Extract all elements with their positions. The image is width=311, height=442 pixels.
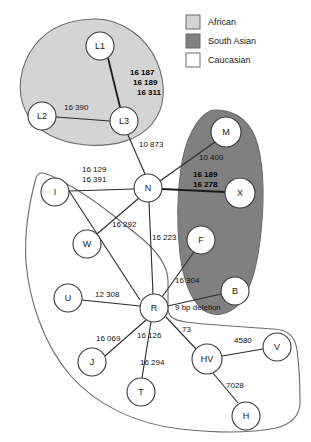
node-HV[interactable]: HV [192,344,222,374]
edge-label-10400: 10 400 [199,153,224,162]
node-label-M: M [222,127,230,137]
legend-swatch-caucasian [186,53,200,67]
edge-label-16187: 16 187 [130,68,155,77]
node-label-J: J [90,357,95,367]
node-R[interactable]: R [140,294,168,322]
edge-N-I [69,189,134,191]
node-label-X: X [237,188,243,198]
node-label-T: T [138,387,144,397]
node-label-L3: L3 [119,116,129,126]
edge-label-4580: 4580 [234,336,252,345]
edge-label-16069: 16 069 [96,334,121,343]
node-label-W: W [83,239,92,249]
edge-label-16126: 16 126 [137,331,162,340]
node-L3[interactable]: L3 [110,107,138,135]
region-shapes [20,19,300,432]
node-T[interactable]: T [127,378,155,406]
legend-label-south-asian: South Asian [208,36,256,46]
edge-label-16294: 16 294 [140,358,165,367]
node-N[interactable]: N [134,174,162,202]
legend-label-african: African [208,17,236,27]
node-label-HV: HV [201,354,214,364]
edge-label-16304: 16 304 [175,276,200,285]
legend: African South Asian Caucasian [186,15,256,67]
node-label-L2: L2 [37,111,47,121]
node-L1[interactable]: L1 [86,32,114,60]
edge-label-16390: 16 390 [64,103,89,112]
edge-label-10873: 10 873 [139,140,164,149]
node-M[interactable]: M [211,117,241,147]
edge-label-73: 73 [182,325,191,334]
node-label-F: F [198,235,204,245]
node-label-R: R [151,303,158,313]
legend-item-south-asian: South Asian [186,34,256,48]
node-W[interactable]: W [73,230,101,258]
node-label-B: B [232,286,238,296]
edge-label-16189a: 16 189 [133,78,158,87]
node-V[interactable]: V [263,333,291,361]
legend-swatch-south-asian [186,34,200,48]
node-H[interactable]: H [232,402,260,430]
edge-label-12308: 12 308 [95,290,120,299]
legend-item-african: African [186,15,236,29]
network-diagram-canvas: 16 187 16 189 16 311 16 390 10 873 10 40… [0,0,311,442]
node-B[interactable]: B [221,277,249,305]
node-L2[interactable]: L2 [28,102,56,130]
edge-label-7028: 7028 [226,381,244,390]
node-I[interactable]: I [41,178,69,206]
node-X[interactable]: X [225,178,255,208]
node-label-N: N [145,183,152,193]
node-U[interactable]: U [54,284,82,312]
edge-label-16129: 16 129 [82,165,107,174]
node-F[interactable]: F [187,226,215,254]
node-label-U: U [65,293,72,303]
node-J[interactable]: J [78,348,106,376]
edge-label-16292: 16 292 [112,220,137,229]
edge-label-16223: 16 223 [152,233,177,242]
edge-label-16391: 16 391 [82,175,107,184]
edge-label-16278: 16 278 [193,180,218,189]
legend-item-caucasian: Caucasian [186,53,251,67]
edge-label-16189b: 16 189 [193,170,218,179]
node-label-H: H [243,411,250,421]
node-label-V: V [274,342,280,352]
node-label-L1: L1 [95,41,105,51]
legend-label-caucasian: Caucasian [208,55,251,65]
node-label-I: I [54,187,57,197]
edge-label-9bp: 9 bp deletion [175,303,221,312]
edge-label-16311: 16 311 [137,88,162,97]
legend-swatch-african [186,15,200,29]
